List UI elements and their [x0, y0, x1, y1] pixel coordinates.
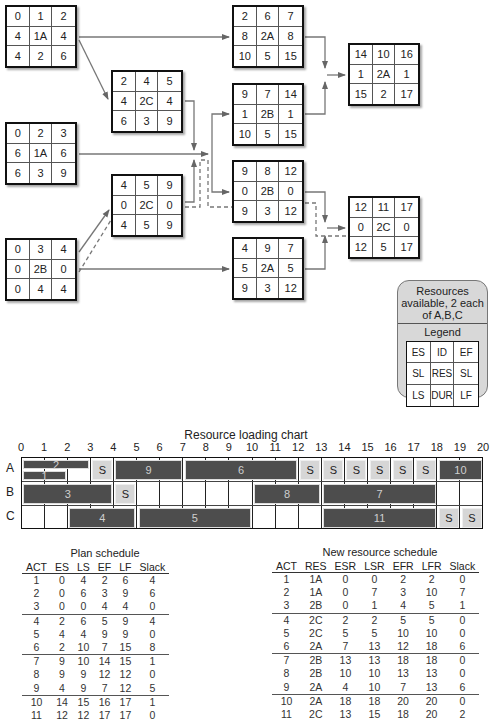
table-cell: 13 [360, 640, 388, 654]
table-cell: 4 [136, 614, 170, 628]
x-tick: 18 [431, 441, 443, 453]
node-lf: 17 [395, 84, 418, 104]
table-cell: 4 [389, 599, 418, 613]
table-cell: 10 [389, 627, 418, 640]
legend-cell: RES [431, 363, 455, 384]
table-cell: 13 [331, 708, 361, 721]
table-cell: 4 [272, 613, 301, 627]
table-cell: 0 [331, 599, 361, 613]
node-res: 1A [30, 144, 53, 164]
table-cell: 4 [115, 600, 135, 614]
table-row: 300440 [22, 600, 169, 614]
legend-panel: Resources available, 2 each of A,B,C Leg… [397, 280, 488, 398]
resources-available-text: Resources available, 2 each of A,B,C [398, 285, 487, 324]
table-cell: 1 [445, 599, 479, 613]
table-cell: 3 [272, 599, 301, 613]
table-cell: 5 [418, 613, 446, 627]
table-cell: 6 [445, 640, 479, 654]
node-ls: 6 [113, 111, 136, 131]
table-cell: 0 [136, 628, 170, 641]
table-row: 426594 [22, 614, 169, 628]
table-cell: 0 [445, 667, 479, 680]
table-cell: 0 [360, 573, 388, 587]
node-lf: 15 [279, 124, 302, 144]
table-cell: 7 [22, 655, 51, 669]
table-cell: 0 [445, 613, 479, 627]
slack-cell: S [346, 460, 366, 480]
node-es: 4 [234, 239, 257, 259]
table-cell: 9 [51, 668, 73, 681]
table-cell: 4 [94, 600, 115, 614]
table-cell: 11 [22, 709, 51, 722]
grid-line [436, 458, 437, 528]
table-cell: 2 [360, 613, 388, 627]
node-id: 3 [30, 240, 53, 260]
new-resource-schedule-table: ACTRESESRLSREFRLFRSlack11A0022021A073107… [272, 559, 479, 721]
node-sl: 0 [350, 218, 373, 238]
legend-cell: DUR [431, 385, 455, 406]
table-row: 92A4107136 [272, 681, 479, 695]
x-tick: 5 [133, 441, 139, 453]
legend-cell: LF [454, 385, 478, 406]
table-row: 206396 [22, 587, 169, 600]
x-tick: 12 [292, 441, 304, 453]
table-cell: 10 [360, 681, 388, 695]
x-tick: 8 [203, 441, 209, 453]
node-sl: 4 [7, 27, 30, 47]
table-cell: 4 [73, 574, 94, 588]
table-cell: 8 [136, 641, 170, 655]
node-ls: 4 [7, 46, 30, 66]
x-tick: 6 [157, 441, 163, 453]
node-dur: 3 [257, 201, 280, 221]
table-cell: 20 [418, 708, 446, 721]
table-cell: 2 [272, 586, 301, 599]
table-cell: 2 [94, 574, 115, 588]
node-dur: 3 [257, 278, 280, 298]
table-cell: 1 [360, 599, 388, 613]
table-row: 11121217170 [22, 709, 169, 722]
slack-cell: S [416, 460, 436, 480]
node-res: 2A [373, 65, 396, 85]
table-cell: 9 [94, 628, 115, 641]
table-cell: 1 [136, 655, 170, 669]
table-cell: 0 [51, 587, 73, 600]
node-res: 2C [136, 196, 159, 216]
activity-node-3: 034 02B0 044 [5, 238, 77, 301]
node-es: 2 [113, 72, 136, 92]
node-es: 0 [7, 240, 30, 260]
table-cell: 14 [51, 695, 73, 709]
table-cell: 10 [331, 667, 361, 680]
legend-cell: LS [407, 385, 431, 406]
x-tick: 13 [315, 441, 327, 453]
node-ef: 14 [279, 85, 302, 105]
node-id: 2 [30, 124, 53, 144]
legend-cell: ID [431, 342, 455, 363]
node-ls: 15 [350, 84, 373, 104]
table-cell: 2 [51, 614, 73, 628]
grid-line [22, 481, 482, 482]
node-sl: 1 [350, 65, 373, 85]
table-cell: 2 [445, 708, 479, 721]
table-row: 11A00220 [272, 573, 479, 587]
table-row: 62107158 [22, 641, 169, 655]
x-tick: 0 [18, 441, 24, 453]
table-cell: 2C [301, 613, 331, 627]
table-cell: 10 [360, 667, 388, 680]
table-cell: 20 [418, 694, 446, 708]
column-header: ACT [22, 560, 51, 574]
node-sl: 0 [279, 182, 302, 202]
node-dur: 3 [136, 111, 159, 131]
activity-bar: 11 [323, 508, 436, 528]
node-sl: 1 [395, 65, 418, 85]
node-res: 2A [257, 259, 280, 279]
table-cell: 13 [418, 681, 446, 695]
node-ef: 3 [52, 124, 75, 144]
table-cell: 1 [136, 695, 170, 709]
activity-node-4: 245 42C4 639 [111, 70, 183, 133]
node-res: 2B [257, 105, 280, 125]
table-cell: 18 [360, 694, 388, 708]
node-dur: 2 [30, 46, 53, 66]
node-sl: 0 [395, 218, 418, 238]
column-header: ES [51, 560, 73, 574]
table-row: 62A71312186 [272, 640, 479, 654]
